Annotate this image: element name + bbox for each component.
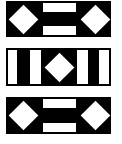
middle-panel-right-outer-bar bbox=[99, 50, 109, 84]
bottom-panel-top-bar bbox=[43, 99, 76, 108]
middle-panel-right-inner-bar bbox=[77, 50, 88, 84]
bottom-panel-bottom-bar bbox=[43, 123, 76, 132]
top-panel-bottom-bar bbox=[43, 26, 76, 35]
top-panel-top-bar bbox=[43, 3, 76, 12]
middle-panel-left-inner-bar bbox=[30, 50, 41, 84]
middle-panel-left-outer-bar bbox=[8, 50, 17, 84]
